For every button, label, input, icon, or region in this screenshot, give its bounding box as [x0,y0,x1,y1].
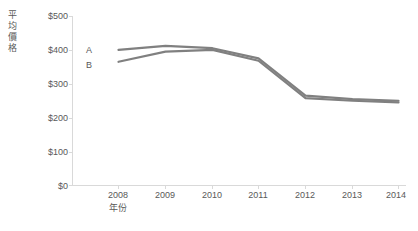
series-line-a [119,46,399,101]
plot-area [0,0,418,231]
line-chart: 平 均 價 格 $500 $400 $300 $200 $100 $0 2008… [0,0,418,231]
y-axis-ticks [69,17,72,186]
x-axis-ticks [119,186,399,189]
